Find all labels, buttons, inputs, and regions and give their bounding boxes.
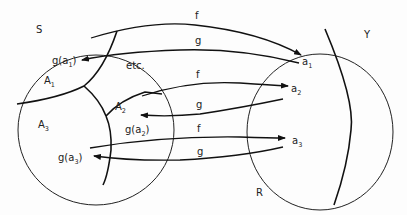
map-f-label-2: f: [196, 69, 200, 80]
map-g-label-2: g: [196, 99, 202, 110]
set-mapping-diagram: S Y R A1 A2 A3 etc. g(a1) g(a2) g(a3) a1…: [0, 0, 407, 215]
set-r-label: R: [256, 187, 263, 198]
region-a2-label: A2: [115, 101, 126, 115]
point-a2-label: a2: [291, 83, 301, 97]
set-y-circle: [247, 54, 393, 210]
point-a3-label: a3: [292, 135, 302, 149]
map-g-arrow-2: [141, 99, 283, 116]
set-s-label: S: [36, 24, 42, 35]
partition-a1-boundary: [17, 31, 117, 104]
map-g-arrow-3: [94, 147, 283, 160]
image-g-a3-label: g(a3): [58, 152, 83, 166]
point-a1-label: a1: [302, 56, 312, 70]
set-s-circle: [18, 55, 174, 205]
map-g-label-3: g: [197, 146, 203, 157]
partition-a2-a3-boundary: [103, 116, 111, 185]
region-a1-label: A1: [44, 75, 55, 89]
map-f-arrow-3: [90, 137, 285, 148]
diagram-canvas: S Y R A1 A2 A3 etc. g(a1) g(a2) g(a3) a1…: [0, 0, 407, 215]
partition-etc-left: [84, 86, 106, 116]
image-g-a1-label: g(a1): [52, 55, 77, 69]
region-etc-label: etc.: [126, 60, 145, 71]
image-g-a2-label: g(a2): [125, 124, 150, 138]
map-f-label-3: f: [197, 123, 201, 134]
map-g-arrow-1: [82, 50, 299, 63]
partition-r-boundary: [325, 29, 351, 205]
set-y-label: Y: [363, 29, 371, 40]
map-f-label-1: f: [195, 10, 199, 21]
map-g-label-1: g: [195, 35, 201, 46]
region-a3-label: A3: [38, 119, 49, 133]
